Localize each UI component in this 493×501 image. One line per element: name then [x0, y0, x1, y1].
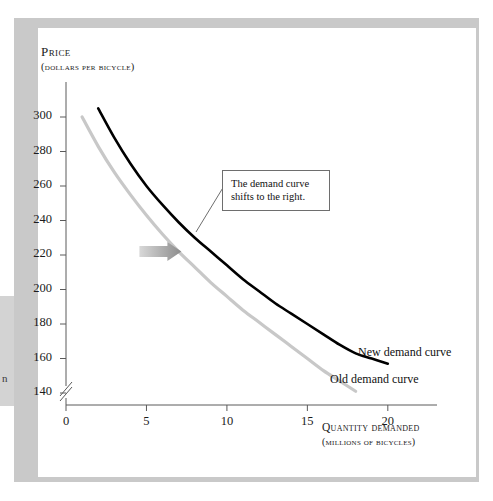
x-axis-subtitle: (millions of bicycles)	[322, 436, 415, 447]
y-tick-label: 280	[22, 143, 52, 158]
y-tick-label: 260	[22, 177, 52, 192]
y-tick-label: 240	[22, 212, 52, 227]
x-tick-label: 15	[295, 414, 319, 429]
y-tick-label: 140	[22, 384, 52, 399]
shift-callout-box: The demand curve shifts to the right.	[222, 170, 330, 211]
shift-callout-line-1: The demand curve	[231, 177, 321, 190]
shift-callout-line-2: shifts to the right.	[231, 190, 321, 203]
figure-inner-panel	[38, 28, 476, 477]
new-demand-curve-label: New demand curve	[358, 345, 451, 360]
old-demand-curve-label: Old demand curve	[330, 372, 419, 387]
y-axis-subtitle: (dollars per bicycle)	[41, 61, 135, 72]
y-tick-label: 300	[22, 108, 52, 123]
y-axis-title: Price	[41, 44, 71, 60]
x-axis-title: Quantity demanded	[322, 421, 420, 433]
x-tick-label: 20	[376, 414, 400, 429]
x-tick-label: 10	[215, 414, 239, 429]
x-tick-label: 0	[54, 414, 78, 429]
y-tick-label: 180	[22, 315, 52, 330]
y-tick-label: 220	[22, 246, 52, 261]
y-tick-label: 160	[22, 350, 52, 365]
x-tick-label: 5	[134, 414, 158, 429]
figure-frame	[14, 18, 479, 482]
page-root: n Price (dollars per bicycle) Quantity d…	[0, 0, 493, 501]
y-tick-label: 200	[22, 281, 52, 296]
